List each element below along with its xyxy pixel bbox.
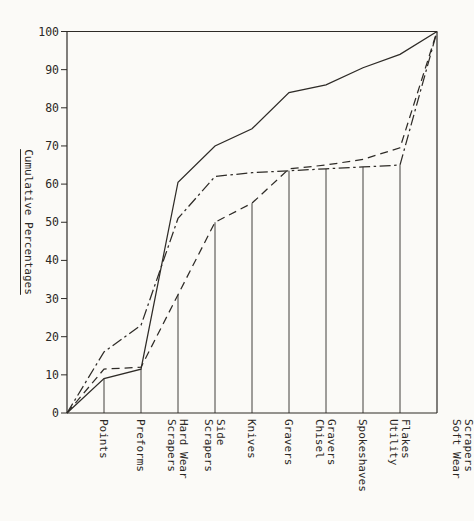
y-tick-label: 60 — [45, 177, 59, 191]
x-category-label: Chisel — [313, 419, 326, 459]
y-tick-label: 100 — [38, 25, 59, 39]
category-drop-lines — [104, 165, 400, 413]
x-category-label: Hard Wear — [177, 419, 190, 479]
y-tick-label: 40 — [45, 253, 59, 267]
y-tick-label: 20 — [45, 330, 59, 344]
y-axis: 0102030405060708090100 — [38, 25, 67, 421]
x-category-label: Scrapers — [165, 419, 178, 472]
x-category-label: Scrapers — [202, 419, 215, 472]
x-category-label: Knives — [245, 419, 258, 459]
figure-page: 0102030405060708090100Cumulative Percent… — [0, 0, 474, 521]
y-tick-label: 50 — [45, 215, 59, 229]
x-category-label: Gravers — [325, 419, 338, 465]
x-category-label: Gravers — [282, 419, 295, 465]
y-axis-title-text: Cumulative Percentages — [22, 149, 35, 295]
y-tick-label: 70 — [45, 139, 59, 153]
x-category-label: Soft Wear — [450, 419, 463, 479]
x-category-label: Preforms — [134, 419, 147, 472]
x-category-label: Spokeshaves — [356, 419, 369, 492]
cumulative-percentage-graph: 0102030405060708090100Cumulative Percent… — [0, 0, 474, 521]
x-category-label: Points — [97, 419, 110, 459]
y-tick-label: 80 — [45, 101, 59, 115]
x-category-label: Flakes — [399, 419, 412, 459]
x-category-label: Scrapers — [462, 419, 474, 472]
x-category-label: Utility — [387, 419, 400, 466]
y-axis-title: Cumulative Percentages — [21, 149, 36, 295]
y-tick-label: 10 — [45, 368, 59, 382]
y-tick-label: 90 — [45, 63, 59, 77]
x-category-labels: PointsPreformsScrapersHard WearScrapersS… — [97, 419, 474, 492]
x-category-label: Side — [214, 419, 227, 446]
y-tick-label: 30 — [45, 292, 59, 306]
y-tick-label: 0 — [52, 406, 59, 420]
